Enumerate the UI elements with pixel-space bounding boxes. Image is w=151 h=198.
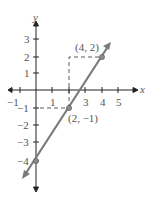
- point-0-neg4: [33, 158, 38, 163]
- x-tick-3: 3: [83, 97, 89, 108]
- y-tick-neg4: −4: [17, 156, 29, 167]
- y-axis-label: y: [33, 12, 38, 23]
- y-tick-1: 1: [24, 68, 30, 79]
- x-axis-label: x: [140, 84, 145, 95]
- x-tick-4: 4: [100, 97, 106, 108]
- point-label-2-neg1: (2, −1): [68, 113, 98, 124]
- point-label-4-2: (4, 2): [75, 42, 99, 53]
- line-arrow-down: [22, 170, 30, 179]
- point-4-2: [99, 54, 104, 59]
- x-tick-1: 1: [50, 97, 56, 108]
- point-2-neg1: [66, 105, 71, 110]
- y-axis-arrow-down: [34, 187, 39, 192]
- y-tick-neg2: −2: [17, 120, 29, 131]
- x-axis-arrow-right: [133, 88, 138, 93]
- y-tick-3: 3: [24, 34, 30, 45]
- y-tick-2: 2: [24, 52, 30, 63]
- y-tick-neg3: −3: [17, 137, 29, 148]
- x-tick-5: 5: [116, 97, 122, 108]
- coordinate-plane: [0, 0, 151, 198]
- x-axis-arrow-left: [8, 88, 12, 93]
- y-tick-neg1: −1: [17, 103, 29, 114]
